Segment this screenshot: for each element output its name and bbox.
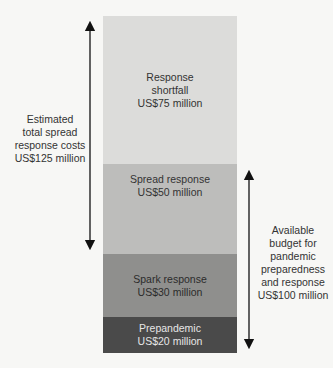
segment-label: Response [146, 71, 193, 84]
segment-label: Spread response [130, 173, 210, 186]
annotation-line: US$125 million [14, 152, 86, 165]
segment-prepandemic: Prepandemic US$20 million [103, 317, 237, 353]
right-annotation: Available budget for pandemic preparedne… [254, 224, 332, 302]
segment-spread-response: Spread response US$50 million [103, 164, 237, 254]
annotation-line: Estimated [14, 113, 86, 126]
segment-value: US$50 million [130, 186, 210, 199]
segment-label: shortfall [152, 84, 189, 97]
left-annotation: Estimated total spread response costs US… [14, 113, 86, 165]
annotation-line: pandemic [254, 250, 332, 263]
segment-spark-response: Spark response US$30 million [103, 254, 237, 317]
annotation-line: preparedness [254, 263, 332, 276]
annotation-line: US$100 million [254, 289, 332, 302]
segment-label: Spark response [133, 273, 207, 286]
annotation-line: Available [254, 224, 332, 237]
annotation-line: total spread [14, 126, 86, 139]
segment-value: US$20 million [138, 335, 203, 348]
segment-value: US$30 million [138, 286, 203, 299]
annotation-line: and response [254, 276, 332, 289]
annotation-line: response costs [14, 139, 86, 152]
segment-value: US$75 million [138, 97, 203, 110]
segment-label: Prepandemic [139, 322, 201, 335]
annotation-line: budget for [254, 237, 332, 250]
